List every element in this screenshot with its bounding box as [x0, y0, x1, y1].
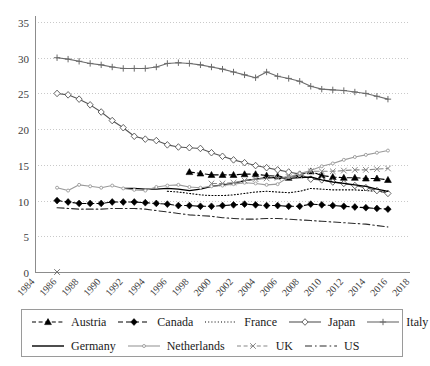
x-axis-tick-label: 2006 — [258, 276, 280, 298]
data-point — [230, 201, 236, 208]
x-axis-tick-label: 2010 — [302, 276, 324, 298]
data-point — [175, 144, 181, 151]
data-point — [285, 75, 291, 81]
data-point — [100, 186, 103, 189]
legend-item-germany[interactable]: Germany — [30, 339, 118, 354]
data-point — [210, 185, 213, 188]
data-point — [186, 60, 192, 66]
data-point — [131, 65, 137, 71]
data-point — [385, 96, 391, 102]
data-point — [285, 203, 291, 210]
data-point — [197, 203, 203, 210]
data-point — [230, 69, 236, 75]
data-point — [164, 201, 170, 208]
data-point — [375, 151, 378, 154]
data-point — [363, 204, 369, 211]
legend-key-dashed-diamond — [116, 315, 152, 329]
data-point — [89, 185, 92, 188]
data-point — [274, 202, 280, 209]
legend-item-label: Austria — [66, 315, 108, 330]
data-point — [142, 136, 148, 143]
data-point — [188, 186, 191, 189]
legend-item-netherlands[interactable]: Netherlands — [126, 339, 227, 354]
data-point — [319, 201, 325, 208]
x-axis-tick-label: 2012 — [324, 276, 346, 298]
series-us — [57, 208, 388, 227]
data-point — [331, 162, 334, 165]
legend-key-dashed-x — [235, 339, 271, 353]
data-point — [175, 60, 181, 66]
legend-key-solid — [30, 339, 66, 353]
y-axis-tick-label: 5 — [24, 231, 30, 243]
x-axis-tick-label: 1998 — [169, 276, 191, 298]
x-axis-tick-label: 2018 — [390, 276, 412, 298]
data-point — [320, 165, 323, 168]
x-axis-tick-label: 1990 — [81, 276, 103, 298]
data-point — [276, 183, 279, 186]
legend-item-uk[interactable]: UK — [235, 339, 295, 354]
data-point — [87, 102, 93, 109]
data-point — [374, 93, 380, 99]
data-point — [254, 182, 257, 185]
data-point — [78, 183, 81, 186]
line-chart-svg: 0510152025303519841986198819901992199419… — [0, 0, 424, 300]
data-point — [263, 69, 269, 75]
x-axis-tick-label: 1996 — [147, 276, 169, 298]
data-point — [186, 144, 192, 151]
x-axis-tick-label: 1986 — [37, 276, 59, 298]
data-point — [252, 201, 258, 208]
y-axis-tick-label: 20 — [18, 124, 30, 136]
data-point — [186, 202, 192, 209]
legend-key-line-plus — [365, 315, 401, 329]
x-axis-tick-label: 2002 — [213, 276, 235, 298]
data-point — [230, 157, 236, 164]
data-point — [208, 64, 214, 70]
data-point — [65, 199, 71, 206]
x-axis-tick-label: 1988 — [59, 276, 81, 298]
data-point — [252, 75, 258, 81]
legend-item-label: Germany — [66, 339, 118, 354]
data-point — [164, 142, 170, 149]
legend-item-us[interactable]: US — [303, 339, 361, 354]
data-point — [199, 186, 202, 189]
data-point — [153, 64, 159, 70]
data-point — [341, 203, 347, 210]
data-point — [166, 184, 169, 187]
data-point — [363, 90, 369, 96]
y-axis-tick-label: 15 — [18, 160, 30, 172]
legend-item-label: Japan — [323, 315, 357, 330]
series-japan — [54, 90, 391, 197]
data-point — [164, 60, 170, 66]
series-italy — [54, 55, 391, 103]
legend-item-italy[interactable]: Italy — [365, 315, 430, 330]
data-point — [142, 199, 148, 206]
x-axis-tick-label: 2000 — [191, 276, 213, 298]
data-point — [330, 87, 336, 93]
x-axis-tick-label: 1994 — [125, 276, 147, 298]
series-line — [57, 93, 388, 193]
data-point — [155, 186, 158, 189]
data-point — [131, 199, 137, 206]
legend-item-austria[interactable]: Austria — [30, 315, 108, 330]
y-axis-tick-label: 35 — [18, 17, 30, 29]
legend-item-japan[interactable]: Japan — [287, 315, 357, 330]
data-point — [241, 72, 247, 78]
data-point — [364, 153, 367, 156]
data-point — [308, 83, 314, 89]
data-point — [341, 87, 347, 93]
legend-item-canada[interactable]: Canada — [116, 315, 195, 330]
data-point — [265, 183, 268, 186]
y-axis-tick-label: 30 — [18, 53, 30, 65]
data-point — [386, 149, 389, 152]
data-point — [297, 78, 303, 84]
data-point — [76, 200, 82, 207]
data-point — [76, 96, 82, 103]
data-point — [76, 58, 82, 64]
legend-item-france[interactable]: France — [203, 315, 279, 330]
data-point — [374, 205, 380, 212]
y-axis-tick-label: 25 — [18, 88, 30, 100]
data-point — [186, 169, 193, 175]
legend-item-label: US — [339, 339, 361, 354]
x-axis-tick-label: 2004 — [236, 276, 258, 298]
data-point — [109, 64, 115, 70]
